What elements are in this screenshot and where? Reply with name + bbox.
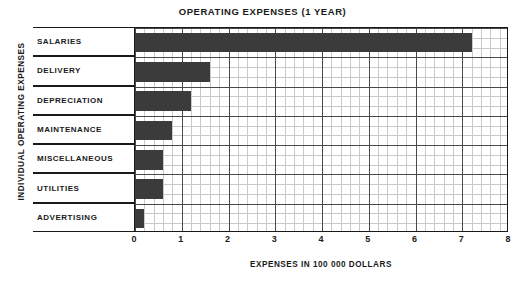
- bar: [135, 209, 144, 229]
- x-tick-label: 4: [318, 234, 323, 244]
- chart-title: OPERATING EXPENSES (1 YEAR): [0, 6, 525, 17]
- category-label: DEPRECIATION: [33, 96, 103, 105]
- x-tick-label: 2: [225, 234, 230, 244]
- category-label: UTILITIES: [33, 184, 79, 193]
- x-tick-label: 0: [131, 234, 136, 244]
- x-tick-label: 8: [505, 234, 510, 244]
- x-tick-label: 6: [412, 234, 417, 244]
- plot-area: [134, 27, 508, 232]
- category-row: DELIVERY: [33, 56, 134, 85]
- x-axis-title: EXPENSES IN 100 000 DOLLARS: [134, 260, 508, 269]
- category-row: ADVERTISING: [33, 203, 134, 232]
- category-label: ADVERTISING: [33, 213, 97, 222]
- x-tick-label: 3: [272, 234, 277, 244]
- bar-series: [135, 28, 507, 231]
- category-row: MISCELLANEOUS: [33, 144, 134, 173]
- y-axis-title: INDIVIDUAL OPERATING EXPENSES: [17, 22, 26, 222]
- category-label: DELIVERY: [33, 66, 81, 75]
- category-row: DEPRECIATION: [33, 86, 134, 115]
- category-row: SALARIES: [33, 27, 134, 56]
- x-tick-label: 5: [365, 234, 370, 244]
- bar: [135, 150, 163, 170]
- bar: [135, 91, 191, 111]
- category-row: UTILITIES: [33, 173, 134, 202]
- category-label-column: SALARIESDELIVERYDEPRECIATIONMAINTENANCEM…: [33, 27, 134, 232]
- bar: [135, 121, 172, 141]
- category-row: MAINTENANCE: [33, 115, 134, 144]
- x-tick-label: 7: [459, 234, 464, 244]
- category-label: MISCELLANEOUS: [33, 154, 113, 163]
- bar: [135, 179, 163, 199]
- x-tick-label: 1: [178, 234, 183, 244]
- category-label: SALARIES: [33, 37, 82, 46]
- bar: [135, 33, 472, 53]
- bar: [135, 62, 210, 82]
- category-label: MAINTENANCE: [33, 125, 102, 134]
- x-axis-tick-labels: 012345678: [134, 234, 508, 248]
- bar-chart: OPERATING EXPENSES (1 YEAR) INDIVIDUAL O…: [0, 0, 525, 283]
